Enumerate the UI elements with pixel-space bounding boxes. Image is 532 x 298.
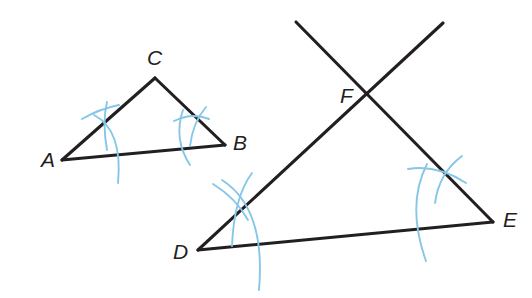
vertex-label-a: A xyxy=(39,148,55,171)
segment-cb xyxy=(155,78,225,145)
construction-arc-b-1 xyxy=(174,116,209,121)
geometry-canvas: A B C D E F xyxy=(0,0,532,298)
construction-arc-a-1 xyxy=(82,105,119,119)
vertex-label-e: E xyxy=(503,208,518,231)
ray-e-through-f xyxy=(296,22,493,222)
vertex-label-b: B xyxy=(233,131,247,154)
angle-arc-e xyxy=(416,164,427,261)
vertex-label-f: F xyxy=(340,84,354,107)
vertex-label-c: C xyxy=(147,46,163,69)
geometry-figure: A B C D E F xyxy=(0,0,532,298)
segment-ab xyxy=(62,145,225,160)
construction-arc-e-1 xyxy=(408,168,466,183)
segment-de xyxy=(198,222,493,250)
vertex-label-d: D xyxy=(173,240,188,263)
arc-group-vertex-b xyxy=(174,107,209,165)
triangle-abc xyxy=(62,78,225,160)
arc-group-vertex-e xyxy=(408,156,466,261)
segment-ac xyxy=(62,78,155,160)
construction-arc-e-2 xyxy=(435,156,462,203)
